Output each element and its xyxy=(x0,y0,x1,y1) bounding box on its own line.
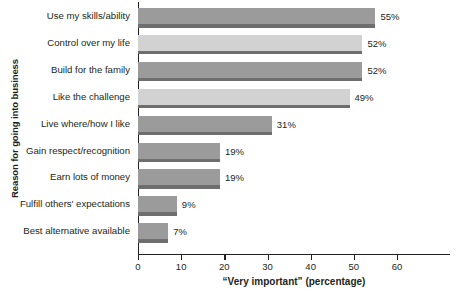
bar-shadow xyxy=(138,51,362,55)
category-label: Build for the family xyxy=(51,62,130,78)
bar[interactable] xyxy=(138,35,362,51)
x-tick-30 xyxy=(268,255,269,260)
x-tick-label-10: 10 xyxy=(166,261,196,272)
x-tick-50 xyxy=(354,255,355,260)
x-tick-0 xyxy=(138,255,139,260)
category-label: Use my skills/ability xyxy=(47,8,130,24)
x-tick-label-50: 50 xyxy=(339,261,369,272)
bar[interactable] xyxy=(138,143,220,159)
bar-row[interactable]: 52% xyxy=(138,35,450,55)
bar-shadow xyxy=(138,24,375,28)
bar[interactable] xyxy=(138,196,177,212)
x-tick-label-40: 40 xyxy=(296,261,326,272)
bar-row[interactable]: 9% xyxy=(138,196,450,216)
bar-row[interactable]: 52% xyxy=(138,62,450,82)
x-tick-label-60: 60 xyxy=(382,261,412,272)
category-label: Live where/how I like xyxy=(41,116,130,132)
category-label: Control over my life xyxy=(47,35,130,51)
bar-value-label: 9% xyxy=(182,198,196,212)
bar-value-label: 52% xyxy=(367,64,386,78)
category-label-list: Use my skills/abilityControl over my lif… xyxy=(12,8,134,248)
bar-row[interactable]: 31% xyxy=(138,116,450,136)
bar-shadow xyxy=(138,239,168,243)
category-label: Like the challenge xyxy=(53,89,130,105)
x-tick-label-0: 0 xyxy=(123,261,153,272)
bar-value-label: 49% xyxy=(355,91,374,105)
category-label: Best alternative available xyxy=(23,223,130,239)
bar[interactable] xyxy=(138,62,362,78)
bar-shadow xyxy=(138,105,350,109)
bar-value-label: 19% xyxy=(225,145,244,159)
bar-shadow xyxy=(138,132,272,136)
category-label: Fulfill others' expectations xyxy=(20,196,130,212)
bar-row[interactable]: 19% xyxy=(138,169,450,189)
x-tick-label-20: 20 xyxy=(209,261,239,272)
x-tick-40 xyxy=(311,255,312,260)
bar-row[interactable]: 55% xyxy=(138,8,450,28)
bar-shadow xyxy=(138,185,220,189)
bar-chart: Reason for going into business Use my sk… xyxy=(0,0,456,296)
bar-value-label: 19% xyxy=(225,171,244,185)
bar-row[interactable]: 49% xyxy=(138,89,450,109)
x-axis-title: “Very important” (percentage) xyxy=(138,276,450,287)
bar[interactable] xyxy=(138,169,220,185)
plot-area: 0102030405060 55%52%52%49%31%19%19%9%7% xyxy=(138,8,450,248)
bar-value-label: 31% xyxy=(277,118,296,132)
bar[interactable] xyxy=(138,8,375,24)
bar-value-label: 7% xyxy=(173,225,187,239)
x-tick-10 xyxy=(181,255,182,260)
x-axis-line xyxy=(138,254,450,255)
bar-shadow xyxy=(138,78,362,82)
category-label: Earn lots of money xyxy=(50,169,130,185)
bar[interactable] xyxy=(138,89,350,105)
bar-row[interactable]: 7% xyxy=(138,223,450,243)
category-label: Gain respect/recognition xyxy=(26,143,130,159)
bar-shadow xyxy=(138,159,220,163)
x-tick-60 xyxy=(397,255,398,260)
bar-shadow xyxy=(138,212,177,216)
bar[interactable] xyxy=(138,223,168,239)
bar-value-label: 55% xyxy=(380,10,399,24)
x-tick-20 xyxy=(224,255,225,260)
bar[interactable] xyxy=(138,116,272,132)
x-tick-label-30: 30 xyxy=(253,261,283,272)
bar-value-label: 52% xyxy=(367,37,386,51)
bar-row[interactable]: 19% xyxy=(138,143,450,163)
